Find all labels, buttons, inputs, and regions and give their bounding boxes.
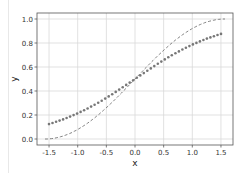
marker-point: [153, 65, 156, 68]
marker-point: [72, 114, 75, 117]
marker-point: [136, 77, 139, 80]
marker-point: [192, 43, 195, 46]
y-tick-label: 0.0: [22, 136, 33, 144]
marker-point: [220, 33, 223, 36]
marker-point: [111, 93, 114, 96]
marker-point: [160, 60, 163, 63]
marker-point: [157, 63, 160, 66]
marker-point: [125, 84, 128, 87]
marker-point: [202, 39, 205, 42]
marker-point: [79, 111, 82, 114]
marker-point: [174, 52, 177, 55]
x-tick-label: -1.0: [71, 149, 85, 157]
marker-point: [76, 112, 79, 115]
marker-point: [65, 117, 68, 120]
marker-point: [114, 91, 117, 94]
marker-point: [93, 103, 96, 106]
marker-point: [216, 34, 219, 37]
x-tick-label: -0.5: [100, 149, 114, 157]
marker-point: [118, 88, 121, 91]
y-tick-label: 0.8: [22, 40, 33, 48]
marker-point: [143, 72, 146, 75]
marker-point: [100, 99, 103, 102]
y-tick-label: 1.0: [22, 16, 33, 24]
marker-point: [188, 45, 191, 48]
x-axis-label: x: [132, 158, 138, 168]
marker-point: [139, 74, 142, 77]
marker-point: [104, 97, 107, 100]
x-tick-label: 1.5: [215, 149, 226, 157]
y-tick-label: 0.6: [22, 64, 34, 72]
line-chart: -1.5-1.0-0.50.00.51.01.50.00.20.40.60.81…: [0, 0, 244, 173]
marker-point: [97, 101, 100, 104]
marker-point: [181, 48, 184, 51]
marker-point: [150, 67, 153, 70]
marker-point: [62, 118, 65, 121]
marker-point: [132, 79, 135, 82]
y-tick-label: 0.2: [22, 112, 33, 120]
marker-point: [128, 81, 131, 84]
marker-point: [121, 86, 124, 89]
marker-point: [86, 107, 89, 110]
x-tick-label: 1.0: [187, 149, 198, 157]
marker-point: [178, 50, 181, 53]
marker-point: [164, 58, 167, 61]
x-tick-label: 0.0: [129, 149, 140, 157]
marker-point: [206, 37, 209, 40]
marker-point: [185, 47, 188, 50]
marker-point: [209, 36, 212, 39]
x-tick-label: -1.5: [42, 149, 56, 157]
marker-point: [199, 40, 202, 43]
marker-point: [146, 69, 149, 72]
marker-point: [83, 109, 86, 112]
marker-point: [167, 56, 170, 59]
y-tick-label: 0.4: [22, 88, 34, 96]
marker-point: [107, 95, 110, 98]
marker-point: [58, 119, 61, 122]
marker-point: [90, 105, 93, 108]
marker-point: [195, 42, 198, 45]
marker-point: [48, 123, 51, 126]
marker-point: [69, 115, 72, 118]
x-tick-label: 0.5: [158, 149, 169, 157]
marker-point: [55, 121, 58, 124]
y-axis-label: y: [9, 76, 19, 82]
marker-point: [171, 54, 174, 57]
marker-point: [213, 35, 216, 38]
marker-point: [51, 122, 54, 125]
